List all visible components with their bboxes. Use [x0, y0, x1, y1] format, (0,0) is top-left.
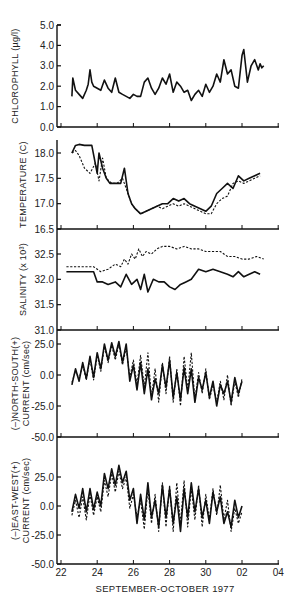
- y-tick-label: 32.0: [35, 274, 55, 285]
- y-tick-label: 32.5: [35, 249, 55, 260]
- y-axis-title: (–)EAST-WEST(+): [10, 461, 20, 540]
- y-axis-title: CURRENT (cm/sec): [21, 458, 31, 544]
- y-tick-label: 0.0: [40, 501, 54, 512]
- y-axis-title: CHLOROPHYLL (µg/l): [10, 28, 20, 123]
- x-tick-label: 04: [273, 567, 285, 578]
- x-tick-label: 26: [128, 567, 140, 578]
- y-tick-label: -25.0: [31, 530, 54, 541]
- x-tick-label: 24: [92, 567, 104, 578]
- y-tick-label: 1.0: [40, 101, 54, 112]
- y-tick-label: 5.0: [40, 20, 54, 31]
- y-tick-label: -50.0: [31, 559, 54, 570]
- y-axis-title: CURRENT (cm/sec): [21, 341, 31, 427]
- y-tick-label: 31.0: [35, 325, 55, 336]
- y-tick-label: 16.5: [35, 224, 55, 235]
- y-tick-label: -50.0: [31, 432, 54, 443]
- x-tick-label: 28: [164, 567, 176, 578]
- panel-temperature: 18.017.517.016.5TEMPERATURE (C): [18, 140, 279, 235]
- x-tick-label: 30: [200, 567, 212, 578]
- y-axis-title: (–)NORTH-SOUTH(+): [10, 337, 20, 431]
- panel-chlorophyll: 5.04.03.02.01.00.0CHLOROPHYLL (µg/l): [10, 20, 279, 133]
- x-axis-title: SEPTEMBER-OCTOBER 1977: [96, 583, 235, 594]
- x-tick-label: 22: [55, 567, 67, 578]
- panel-salinity: 32.532.031.531.0SALINITY (x 10³): [18, 229, 279, 336]
- series-salinity-dashed: [66, 246, 263, 271]
- y-tick-label: 25.0: [35, 472, 55, 483]
- panel-north-south-current: 25.00.0-25.0-50.0(–)NORTH-SOUTH(+)CURREN…: [10, 330, 279, 443]
- y-tick-label: 17.0: [35, 198, 55, 209]
- y-tick-label: 0.0: [40, 370, 54, 381]
- y-tick-label: 4.0: [40, 40, 54, 51]
- series-ns-current-solid: [72, 342, 242, 407]
- y-tick-label: 0.0: [40, 122, 54, 133]
- y-tick-label: 25.0: [35, 339, 55, 350]
- series-chlorophyll: [72, 50, 264, 101]
- y-tick-label: 18.0: [35, 148, 55, 159]
- y-tick-label: 31.5: [35, 299, 55, 310]
- series-salinity-solid: [66, 269, 260, 292]
- series-temperature-solid: [72, 144, 260, 213]
- x-tick-label: 02: [236, 567, 248, 578]
- y-tick-label: 3.0: [40, 60, 54, 71]
- y-axis-title: TEMPERATURE (C): [18, 141, 28, 228]
- y-tick-label: -25.0: [31, 401, 54, 412]
- y-tick-label: 2.0: [40, 81, 54, 92]
- y-axis-title: SALINITY (x 10³): [18, 243, 28, 316]
- series-ew-current-dashed: [72, 471, 242, 531]
- panel-east-west-current: 25.00.0-25.0-50.0(–)EAST-WEST(+)CURRENT …: [10, 437, 279, 570]
- multi-panel-oceanographic-chart: 5.04.03.02.01.00.0CHLOROPHYLL (µg/l)18.0…: [0, 0, 296, 599]
- y-tick-label: 17.5: [35, 173, 55, 184]
